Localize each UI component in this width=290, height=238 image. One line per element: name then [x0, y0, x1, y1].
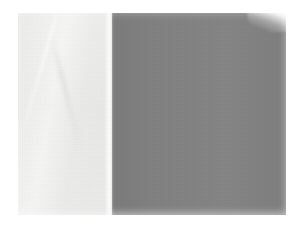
dark-field-region: [112, 13, 286, 215]
diagonal-crease: [19, 13, 62, 143]
crease-shadow: [51, 39, 83, 156]
light-field-region: [18, 13, 112, 215]
paper-sample-photo: [18, 13, 286, 215]
corner-lift-highlight: [247, 13, 286, 35]
image-canvas: [0, 0, 290, 238]
tone-boundary: [110, 13, 115, 215]
